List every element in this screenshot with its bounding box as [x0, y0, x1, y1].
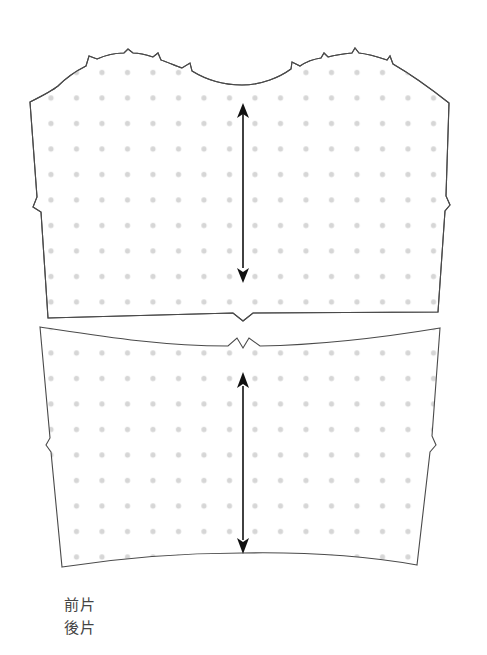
front-piece	[30, 48, 450, 321]
front-piece-label: 前片	[64, 594, 96, 617]
back-piece-label: 後片	[64, 617, 96, 640]
piece-labels: 前片 後片	[64, 594, 96, 640]
back-dot-fill	[40, 327, 440, 567]
front-dot-fill	[30, 48, 450, 321]
back-piece	[40, 327, 440, 567]
pattern-diagram	[0, 0, 487, 655]
